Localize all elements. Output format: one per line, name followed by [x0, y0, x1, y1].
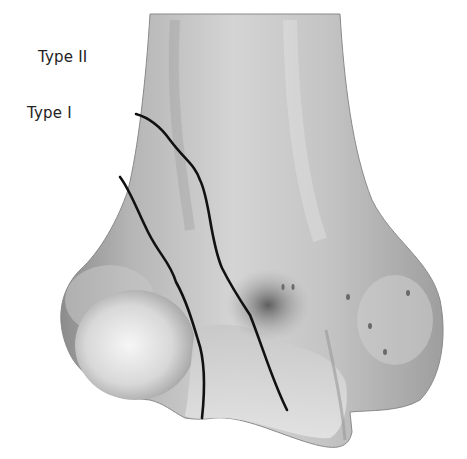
coronoid-fossa	[226, 269, 310, 341]
bone-drawing	[0, 0, 467, 459]
capitulum	[75, 290, 195, 400]
humerus-illustration: Type II Type I	[0, 0, 467, 459]
label-type-ii: Type II	[38, 48, 87, 66]
label-type-i: Type I	[27, 104, 72, 122]
